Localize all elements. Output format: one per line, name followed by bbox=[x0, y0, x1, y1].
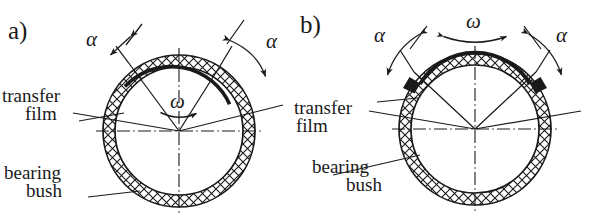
panel-b-label: b) bbox=[300, 12, 321, 38]
panel-a-alpha-left: α bbox=[86, 28, 97, 50]
panel-b-alpha-left: α bbox=[374, 24, 385, 46]
panel-b-alpha-right: α bbox=[556, 24, 567, 46]
panel-a-label: a) bbox=[8, 18, 27, 44]
panel-b-omega-arrow bbox=[444, 37, 507, 43]
panel-b-bearing-bush-label-line2: bush bbox=[346, 175, 382, 195]
panel-b-transfer-film-label-line2: film bbox=[296, 116, 328, 136]
panel-a-omega: ω bbox=[170, 90, 185, 112]
panel-a-bearing-bush-label-line2: bush bbox=[26, 181, 62, 201]
bearing-transfer-film-figure: a) α α ω transfer film bearing bush b) α… bbox=[0, 0, 590, 219]
panel-b-omega: ω bbox=[466, 10, 481, 32]
panel-a-transfer-film-label-line2: film bbox=[25, 104, 57, 124]
panel-b-bearing-bush bbox=[391, 45, 561, 215]
panel-a-alpha-right: α bbox=[266, 30, 277, 52]
panel-a-bearing-bush bbox=[95, 47, 265, 217]
